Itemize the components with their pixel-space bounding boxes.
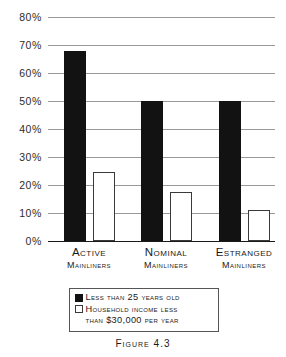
bar-active-mainliners-series-2 bbox=[93, 172, 115, 241]
y-tick-label-70pct: 70% bbox=[19, 39, 42, 51]
y-tick-label-20pct: 20% bbox=[19, 179, 42, 191]
bar-nominal-mainliners-series-1 bbox=[141, 101, 163, 241]
category-label-line2: Mainliners bbox=[49, 259, 129, 272]
y-tick-label-10pct: 10% bbox=[19, 207, 42, 219]
legend-label-less-than-25: Less than 25 years old bbox=[86, 292, 180, 304]
category-label-line2: Mainliners bbox=[126, 259, 206, 272]
chart-legend: Less than 25 years old Household income … bbox=[69, 288, 219, 332]
bar-nominal-mainliners-series-2 bbox=[170, 192, 192, 241]
figure-4-3: 80%70%60%50%40%30%20%10%0% ActiveMainlin… bbox=[0, 0, 286, 357]
y-tick-label-30pct: 30% bbox=[19, 151, 42, 163]
legend-label-household-income-line2: than $30,000 per year bbox=[86, 315, 179, 327]
category-label-line1: Nominal bbox=[126, 246, 206, 259]
y-tick-label-50pct: 50% bbox=[19, 95, 42, 107]
legend-label-household-income: Household income less bbox=[86, 304, 178, 316]
bar-active-mainliners-series-1 bbox=[64, 51, 86, 241]
gridline-80pct bbox=[48, 17, 275, 18]
y-tick-label-40pct: 40% bbox=[19, 123, 42, 135]
legend-swatch-light-icon bbox=[75, 305, 83, 313]
y-axis-labels: 80%70%60%50%40%30%20%10%0% bbox=[0, 17, 42, 241]
bar-estranged-mainliners-series-1 bbox=[219, 101, 241, 241]
category-label-line1: Active bbox=[49, 246, 129, 259]
x-axis-category-labels: ActiveMainlinersNominalMainlinersEstrang… bbox=[48, 246, 275, 280]
y-tick-label-80pct: 80% bbox=[19, 11, 42, 23]
figure-caption: Figure 4.3 bbox=[0, 338, 286, 349]
legend-item-household-income-cont: than $30,000 per year bbox=[75, 315, 213, 327]
category-label-line1: Estranged bbox=[204, 246, 284, 259]
y-tick-label-0pct: 0% bbox=[26, 235, 42, 247]
category-label-nominal-mainliners: NominalMainliners bbox=[126, 246, 206, 272]
gridline-70pct bbox=[48, 45, 275, 46]
y-tick-label-60pct: 60% bbox=[19, 67, 42, 79]
legend-item-less-than-25: Less than 25 years old bbox=[75, 292, 213, 304]
legend-item-household-income: Household income less bbox=[75, 304, 213, 316]
category-label-line2: Mainliners bbox=[204, 259, 284, 272]
category-label-active-mainliners: ActiveMainliners bbox=[49, 246, 129, 272]
category-label-estranged-mainliners: EstrangedMainliners bbox=[204, 246, 284, 272]
plot-area bbox=[48, 17, 275, 241]
bar-estranged-mainliners-series-2 bbox=[248, 210, 270, 241]
legend-swatch-dark-icon bbox=[75, 294, 83, 302]
